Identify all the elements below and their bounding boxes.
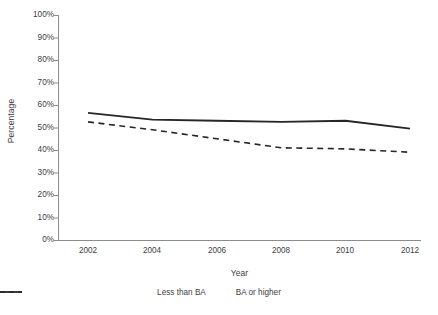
legend-solid-line-icon	[0, 288, 22, 296]
y-axis-ticks	[54, 16, 58, 241]
chart-legend: Less than BA BA or higher	[0, 288, 438, 297]
legend-label: BA or higher	[236, 288, 281, 297]
x-axis-title: Year	[58, 268, 421, 278]
series-line-less-than-ba	[88, 122, 410, 152]
x-tick-label: 2002	[66, 246, 110, 255]
line-chart: Percentage 100% 90% 80% 70% 60% 50% 40% …	[0, 0, 438, 315]
x-tick-label: 2012	[388, 246, 432, 255]
x-tick-label: 2004	[130, 246, 174, 255]
legend-item-ba-or-higher: BA or higher	[236, 288, 281, 297]
legend-label: Less than BA	[157, 288, 206, 297]
legend-item-less-than-ba: Less than BA	[157, 288, 206, 297]
x-tick-label: 2008	[259, 246, 303, 255]
x-tick-label: 2010	[323, 246, 367, 255]
x-tick-label: 2006	[195, 246, 239, 255]
series-line-ba-or-higher	[88, 113, 410, 129]
